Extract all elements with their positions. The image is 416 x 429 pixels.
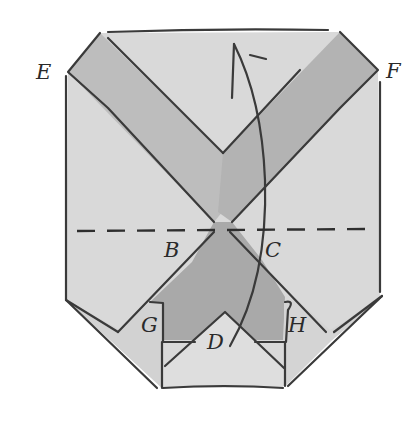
top-edge — [108, 29, 328, 32]
label-e: E — [35, 60, 51, 84]
origami-diagram: E F B C G D H — [0, 0, 416, 429]
label-c: C — [265, 238, 281, 262]
label-f: F — [385, 59, 402, 83]
label-g: G — [141, 313, 158, 337]
label-b: B — [163, 238, 179, 262]
label-d: D — [206, 330, 224, 354]
label-h: H — [287, 313, 307, 337]
